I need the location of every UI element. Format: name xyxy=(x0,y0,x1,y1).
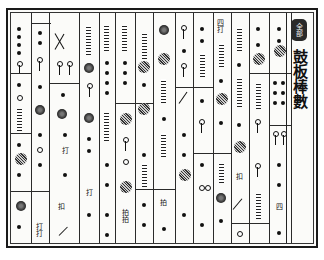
note-dot xyxy=(277,163,281,167)
note-dot xyxy=(182,133,186,137)
large-circle xyxy=(138,61,150,73)
note-dot xyxy=(277,183,281,187)
note-dot xyxy=(38,163,42,167)
note-dot xyxy=(38,85,42,89)
score-column-8 xyxy=(153,13,176,243)
tremolo-mark xyxy=(142,163,147,187)
note-dot xyxy=(38,41,42,45)
section-badge: 全部 xyxy=(291,19,307,41)
note-ring xyxy=(123,137,129,143)
note-dot xyxy=(142,153,146,157)
note-dot xyxy=(200,27,204,31)
tremolo-mark xyxy=(161,79,166,103)
tremolo-mark xyxy=(104,25,109,51)
tremolo-mark xyxy=(256,83,261,109)
note-dot xyxy=(17,143,21,147)
tremolo-mark xyxy=(219,43,224,67)
note-ring xyxy=(255,119,261,125)
large-dot xyxy=(84,113,94,123)
note-dot xyxy=(200,163,204,167)
stroke-stick xyxy=(283,135,284,145)
note-dot xyxy=(105,183,109,187)
note-dot xyxy=(281,91,285,95)
note-dot xyxy=(123,81,127,85)
mark-label: 拍拍 xyxy=(121,209,128,223)
page-title: 鼓板棒數 xyxy=(290,49,308,109)
stroke-stick xyxy=(89,87,90,97)
large-circle xyxy=(15,153,27,165)
note-dot xyxy=(105,163,109,167)
strike-label: 打 xyxy=(61,147,68,154)
section-rule xyxy=(11,133,31,134)
tremolo-mark xyxy=(219,163,224,183)
note-dot xyxy=(105,91,109,95)
score-column-2 xyxy=(31,13,50,243)
note-dot xyxy=(17,35,21,39)
note-dot xyxy=(105,213,109,217)
large-dot xyxy=(16,201,26,211)
tremolo-mark xyxy=(237,27,242,51)
note-dot xyxy=(200,223,204,227)
stroke-stick xyxy=(257,123,258,133)
mark-label: 四 xyxy=(275,203,282,210)
note-dot xyxy=(17,173,21,177)
note-dot xyxy=(105,71,109,75)
note-dot xyxy=(219,79,223,83)
stroke-stick xyxy=(275,135,276,145)
large-circle xyxy=(120,181,132,193)
large-dot xyxy=(57,109,67,119)
note-dot xyxy=(273,81,277,85)
score-column-10 xyxy=(193,13,214,243)
note-dot xyxy=(142,83,146,87)
strike-label: 打打 xyxy=(35,223,42,237)
note-dot xyxy=(200,39,204,43)
mark-label: 拍 xyxy=(159,199,166,206)
stroke-stick xyxy=(19,65,20,73)
note-dot xyxy=(281,81,285,85)
note-ring xyxy=(199,119,205,125)
large-circle xyxy=(120,113,132,125)
note-ring xyxy=(205,185,211,191)
note-dot xyxy=(200,99,204,103)
note-ring xyxy=(17,61,23,67)
note-dot xyxy=(105,233,109,237)
stroke-stick xyxy=(69,65,70,75)
note-dot xyxy=(17,225,21,229)
note-dot xyxy=(105,81,109,85)
large-circle xyxy=(274,45,286,57)
note-dot xyxy=(182,49,186,53)
stroke-stick xyxy=(39,61,40,71)
score-column-9 xyxy=(175,13,194,243)
note-dot xyxy=(17,27,21,31)
mark-label: 扣 xyxy=(57,203,64,210)
note-dot xyxy=(273,101,277,105)
large-circle xyxy=(138,103,150,115)
note-dot xyxy=(38,133,42,137)
large-circle xyxy=(216,93,228,105)
note-dot xyxy=(182,153,186,157)
note-dot xyxy=(142,223,146,227)
large-dot xyxy=(216,193,226,203)
section-rule xyxy=(49,83,79,84)
note-dot xyxy=(162,117,166,121)
inner-frame: 打打 打 扣 打 xyxy=(10,12,314,244)
note-dot xyxy=(162,227,166,231)
tremolo-mark xyxy=(104,113,109,141)
note-dot xyxy=(105,61,109,65)
tremolo-mark xyxy=(86,25,91,55)
large-circle xyxy=(253,53,265,65)
stroke-stick xyxy=(183,67,184,77)
note-dot xyxy=(123,71,127,75)
note-dot xyxy=(61,93,65,97)
note-ring xyxy=(17,95,23,101)
note-dot xyxy=(63,133,67,137)
large-circle xyxy=(158,53,170,65)
note-dot xyxy=(17,43,21,47)
section-rule xyxy=(11,191,49,192)
note-dot xyxy=(256,27,260,31)
section-rule xyxy=(11,73,31,74)
section-rule xyxy=(135,189,175,190)
note-ring xyxy=(273,131,279,137)
note-dot xyxy=(182,213,186,217)
tremolo-mark xyxy=(237,77,242,107)
